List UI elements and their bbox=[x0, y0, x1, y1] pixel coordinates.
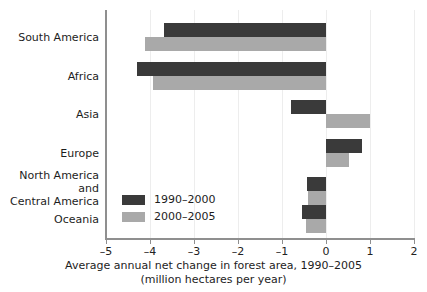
x-axis-line bbox=[105, 238, 415, 240]
x-tick-mark bbox=[150, 239, 151, 244]
x-tick-label: –2 bbox=[232, 245, 245, 258]
x-tick-mark bbox=[238, 239, 239, 244]
category-label-oceania: Oceania bbox=[54, 213, 99, 226]
legend-item-2000-2005: 2000–2005 bbox=[122, 209, 216, 224]
x-tick-label: 0 bbox=[323, 245, 330, 258]
x-tick-mark bbox=[370, 239, 371, 244]
bar-europe-2000-2005 bbox=[326, 153, 349, 167]
x-tick-label: –5 bbox=[100, 245, 113, 258]
x-tick-label: –1 bbox=[276, 245, 289, 258]
bar-oceania-2000-2005 bbox=[306, 219, 326, 233]
legend-swatch-icon bbox=[122, 212, 145, 222]
gridline-2 bbox=[414, 10, 415, 238]
chart-screenshot: South AmericaAfricaAsiaEuropeNorth Ameri… bbox=[0, 0, 427, 292]
bar-south-america-1990-2000 bbox=[164, 23, 326, 37]
legend-item-1990-2000: 1990–2000 bbox=[122, 192, 216, 207]
legend-label: 1990–2000 bbox=[154, 193, 216, 206]
x-tick-label: –3 bbox=[188, 245, 201, 258]
gridline-1 bbox=[370, 10, 371, 238]
x-tick-mark bbox=[106, 239, 107, 244]
bar-north-america-and-central-america-1990-2000 bbox=[307, 177, 326, 191]
bar-asia-2000-2005 bbox=[326, 114, 370, 128]
bar-europe-1990-2000 bbox=[326, 139, 362, 153]
category-label-north-america-and-central-america: North America and Central America bbox=[0, 169, 99, 208]
bar-north-america-and-central-america-2000-2005 bbox=[308, 191, 326, 205]
x-tick-label: –4 bbox=[144, 245, 157, 258]
bar-chart-plot-area: South AmericaAfricaAsiaEuropeNorth Ameri… bbox=[0, 0, 427, 292]
x-tick-label: 2 bbox=[411, 245, 418, 258]
category-label-south-america: South America bbox=[18, 31, 99, 44]
x-axis-title-line-1: Average annual net change in forest area… bbox=[65, 259, 362, 272]
bar-south-america-2000-2005 bbox=[145, 37, 326, 51]
x-tick-mark bbox=[282, 239, 283, 244]
x-axis-title: Average annual net change in forest area… bbox=[0, 259, 427, 287]
category-label-asia: Asia bbox=[76, 108, 99, 121]
legend-label: 2000–2005 bbox=[154, 210, 216, 223]
x-tick-mark bbox=[194, 239, 195, 244]
chart-legend: 1990–20002000–2005 bbox=[122, 192, 216, 226]
bar-oceania-1990-2000 bbox=[302, 205, 326, 219]
y-axis-line bbox=[105, 10, 107, 239]
category-label-europe: Europe bbox=[60, 147, 99, 160]
x-tick-mark bbox=[414, 239, 415, 244]
bar-asia-1990-2000 bbox=[291, 100, 326, 114]
bar-africa-1990-2000 bbox=[137, 62, 326, 76]
x-tick-mark bbox=[326, 239, 327, 244]
x-axis-title-line-2: (million hectares per year) bbox=[0, 273, 427, 287]
bar-africa-2000-2005 bbox=[153, 76, 326, 90]
x-tick-label: 1 bbox=[367, 245, 374, 258]
legend-swatch-icon bbox=[122, 195, 145, 205]
category-label-africa: Africa bbox=[68, 70, 99, 83]
